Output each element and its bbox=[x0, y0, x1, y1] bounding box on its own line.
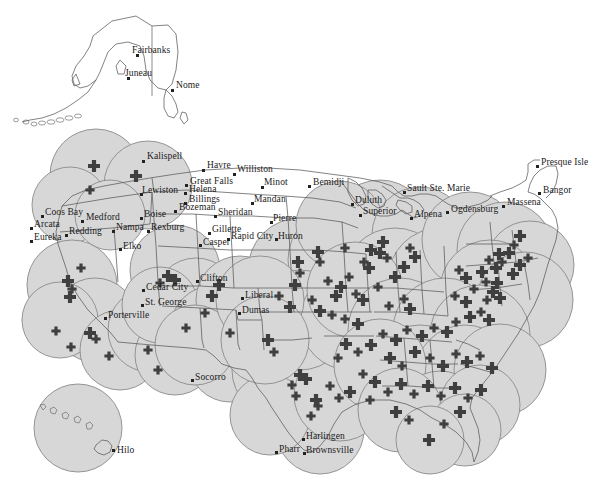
city-label: Ogdensburg bbox=[451, 205, 498, 215]
city-marker-dot bbox=[214, 215, 217, 218]
city-marker-dot bbox=[446, 211, 449, 214]
city-marker-dot bbox=[174, 210, 177, 213]
city-marker-dot bbox=[233, 173, 236, 176]
city-label: Eureka bbox=[34, 233, 62, 243]
city-label: Lewiston bbox=[142, 186, 178, 196]
city-marker-dot bbox=[112, 230, 115, 233]
city-label: Sheridan bbox=[218, 208, 253, 218]
city-label: Rexburg bbox=[151, 223, 184, 233]
city-marker-dot bbox=[536, 165, 539, 168]
city-marker-dot bbox=[410, 217, 413, 220]
city-marker-dot bbox=[238, 312, 241, 315]
city-label: Juneau bbox=[125, 69, 152, 79]
city-marker-dot bbox=[302, 438, 305, 441]
city-label: Porterville bbox=[108, 311, 149, 321]
city-marker-dot bbox=[119, 248, 122, 251]
city-label: Huron bbox=[278, 232, 303, 242]
city-marker-dot bbox=[147, 230, 150, 233]
city-marker-dot bbox=[171, 89, 174, 92]
city-label: Casper bbox=[203, 238, 230, 248]
city-label: Socorro bbox=[195, 373, 226, 383]
coverage-map: FairbanksJuneauNomeHiloKalispellHavreWil… bbox=[0, 0, 605, 491]
city-label: Presque Isle bbox=[541, 158, 588, 168]
city-label: Superior bbox=[363, 207, 397, 217]
city-marker-dot bbox=[30, 227, 33, 230]
city-label: Clifton bbox=[200, 274, 228, 284]
city-label: Harlingen bbox=[306, 432, 345, 442]
city-marker-dot bbox=[241, 297, 244, 300]
city-marker-dot bbox=[185, 184, 188, 187]
city-label: Medford bbox=[86, 213, 120, 223]
city-label: Havre bbox=[207, 161, 231, 171]
city-marker-dot bbox=[208, 232, 211, 235]
city-label: Pharr bbox=[279, 445, 300, 455]
city-label: Bemidji bbox=[313, 178, 344, 188]
city-label: Elko bbox=[123, 242, 141, 252]
city-marker-dot bbox=[30, 240, 33, 243]
city-marker-dot bbox=[81, 220, 84, 223]
city-marker-dot bbox=[275, 451, 278, 454]
city-marker-dot bbox=[191, 379, 194, 382]
city-label: Redding bbox=[69, 227, 102, 237]
city-marker-dot bbox=[502, 205, 505, 208]
city-label: Arcata bbox=[34, 220, 60, 230]
city-marker-dot bbox=[403, 191, 406, 194]
city-marker-dot bbox=[199, 244, 202, 247]
city-label: Minot bbox=[264, 178, 288, 188]
city-label: Mandan bbox=[254, 195, 286, 205]
city-label: Alpena bbox=[414, 210, 442, 220]
city-label: Coos Bay bbox=[45, 208, 83, 218]
city-label: Massena bbox=[507, 198, 541, 208]
city-marker-dot bbox=[140, 217, 143, 220]
city-marker-dot bbox=[142, 160, 145, 163]
city-label: Hilo bbox=[117, 446, 134, 456]
city-label: Fairbanks bbox=[132, 46, 170, 56]
city-marker-dot bbox=[202, 169, 205, 172]
city-label: Kalispell bbox=[147, 152, 182, 162]
city-label: St. George bbox=[145, 298, 186, 308]
city-marker-dot bbox=[141, 304, 144, 307]
city-marker-dot bbox=[142, 289, 145, 292]
city-label: Rapid City bbox=[231, 232, 273, 242]
city-label: Dumas bbox=[242, 306, 269, 316]
city-label: Pierre bbox=[273, 214, 296, 224]
city-label: Boise bbox=[144, 210, 166, 220]
city-marker-dot bbox=[112, 449, 115, 452]
city-marker-dot bbox=[538, 192, 541, 195]
city-label: Bozeman bbox=[179, 203, 216, 213]
map-canvas bbox=[0, 0, 605, 491]
city-label: Duluth bbox=[355, 196, 382, 206]
city-label: Nampa bbox=[116, 223, 144, 233]
city-marker-dot bbox=[184, 192, 187, 195]
city-label: Cedar City bbox=[146, 283, 188, 293]
city-label: Brownsville bbox=[306, 446, 354, 456]
city-label: Bangor bbox=[543, 186, 572, 196]
city-marker-dot bbox=[196, 280, 199, 283]
city-marker-dot bbox=[308, 185, 311, 188]
city-label: Sault Ste. Marie bbox=[407, 184, 470, 194]
city-label: Liberal bbox=[245, 291, 273, 301]
city-marker-dot bbox=[65, 234, 68, 237]
city-marker-dot bbox=[359, 214, 362, 217]
city-marker-dot bbox=[104, 317, 107, 320]
city-label: Williston bbox=[237, 165, 273, 175]
city-marker-dot bbox=[351, 203, 354, 206]
city-marker-dot bbox=[41, 215, 44, 218]
city-label: Nome bbox=[176, 81, 200, 91]
